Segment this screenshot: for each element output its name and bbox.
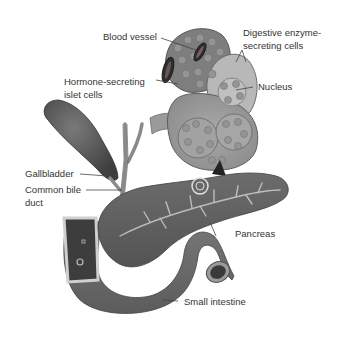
- label-hormone-cells-line2: islet cells: [64, 89, 103, 101]
- label-digestive-cells-line1: Digestive enzyme-: [243, 27, 321, 39]
- label-small-intestine: Small intestine: [184, 296, 246, 308]
- label-hormone-cells-line1: Hormone-secreting: [64, 76, 145, 88]
- zoom-region-marker: [192, 178, 208, 194]
- label-pancreas: Pancreas: [235, 228, 275, 240]
- label-digestive-cells-line2: secreting cells: [243, 40, 303, 52]
- label-blood-vessel: Blood vessel: [103, 31, 157, 43]
- label-common-bile-duct-line2: duct: [25, 197, 43, 209]
- label-common-bile-duct-line1: Common bile: [25, 184, 81, 196]
- pancreas-diagram: Blood vessel Digestive enzyme- secreting…: [0, 0, 348, 344]
- label-gallbladder: Gallbladder: [25, 168, 74, 180]
- label-nucleus: Nucleus: [258, 81, 292, 93]
- tissue-cluster: [150, 29, 258, 171]
